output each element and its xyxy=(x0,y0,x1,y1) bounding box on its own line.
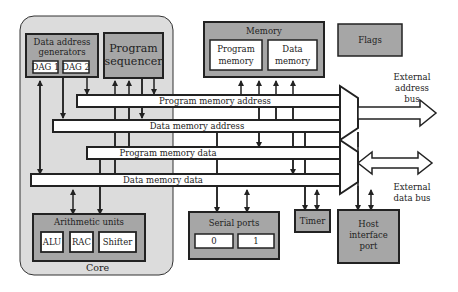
data-memory-data-bus: Data memory data xyxy=(31,174,340,186)
data-bus-mux xyxy=(340,140,358,194)
external-address-bus-arrow-icon xyxy=(358,100,436,126)
host-line3: port xyxy=(359,241,378,251)
program-memory-address-label: Program memory address xyxy=(159,96,271,106)
external-address-bus-label: External address bus xyxy=(394,72,431,104)
dag-title-line1: Data address xyxy=(34,37,91,47)
data-memory-line1: Data xyxy=(282,44,302,54)
program-memory-line2: memory xyxy=(218,56,253,66)
program-memory-line1: Program xyxy=(217,44,255,54)
dsp-architecture-diagram: Core Data address generators DAG 1 DAG 2… xyxy=(0,0,458,292)
arithmetic-units: Arithmetic units ALU RAC Shifter xyxy=(33,214,145,261)
program-sequencer: Program sequencer xyxy=(104,33,163,78)
memory-title: Memory xyxy=(246,26,282,36)
external-data-bus-arrow-icon xyxy=(358,152,432,174)
data-memory-address-label: Data memory address xyxy=(150,121,245,131)
svg-text:data bus: data bus xyxy=(394,193,431,203)
svg-text:bus: bus xyxy=(404,94,419,104)
program-memory-data-label: Program memory data xyxy=(119,148,216,158)
dag-title-line2: generators xyxy=(38,47,85,57)
timer-block: Timer xyxy=(295,210,330,232)
rac-label: RAC xyxy=(72,237,91,247)
data-memory-line2: memory xyxy=(275,56,310,66)
memory-block: Memory Program memory Data memory xyxy=(204,22,324,77)
dag2-label: DAG 2 xyxy=(62,62,90,72)
timer-label: Timer xyxy=(300,216,326,226)
flags-block: Flags xyxy=(338,24,402,56)
program-sequencer-line2: sequencer xyxy=(105,55,164,68)
svg-text:External: External xyxy=(394,72,431,82)
serial-port-1-label: 1 xyxy=(253,236,258,246)
data-address-generators: Data address generators DAG 1 DAG 2 xyxy=(26,34,98,77)
core-label: Core xyxy=(86,262,110,273)
flags-label: Flags xyxy=(358,35,382,45)
arithmetic-units-title: Arithmetic units xyxy=(53,217,124,227)
serial-port-0-label: 0 xyxy=(211,236,216,246)
program-memory-data-bus: Program memory data xyxy=(87,147,340,159)
host-line1: Host xyxy=(358,219,379,229)
host-line2: interface xyxy=(349,230,388,240)
host-interface-port: Host interface port xyxy=(338,210,399,263)
serial-ports: Serial ports 0 1 xyxy=(189,212,279,259)
data-memory-data-label: Data memory data xyxy=(123,175,203,185)
external-data-bus-label: External data bus xyxy=(394,182,431,203)
alu-label: ALU xyxy=(42,237,61,247)
data-memory-address-bus: Data memory address xyxy=(53,120,340,132)
serial-ports-title: Serial ports xyxy=(209,218,260,228)
program-memory-address-bus: Program memory address xyxy=(77,95,340,107)
dag1-label: DAG 1 xyxy=(32,62,60,72)
address-bus-mux xyxy=(340,86,358,140)
svg-text:External: External xyxy=(394,182,431,192)
svg-text:address: address xyxy=(395,83,429,93)
shifter-label: Shifter xyxy=(103,237,134,247)
program-sequencer-line1: Program xyxy=(109,42,158,55)
